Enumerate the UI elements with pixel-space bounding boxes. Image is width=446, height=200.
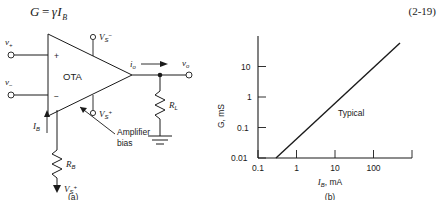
equation-rhs-symbol: γI (52, 4, 62, 19)
bias-annotation-line1: Amplifier (117, 127, 150, 137)
circuit-schematic: v+ v− + − OTA VS− VS+ Amplifier bias (0, 28, 210, 200)
equation-lhs: G (30, 4, 40, 19)
panel-a-circuit-diagram: v+ v− + − OTA VS− VS+ Amplifier bias (0, 28, 210, 200)
x-tick-label-2: 10 (330, 163, 340, 173)
bias-current-label: IB (32, 121, 40, 132)
x-axis-title: IB, mA (317, 177, 343, 188)
y-tick-label-1: 0.1 (237, 123, 249, 133)
y-tick-label-2: 1 (247, 92, 252, 102)
load-resistor-label: RL (168, 100, 178, 111)
y-axis-title: G, mS (216, 104, 226, 128)
input-minus-sign: − (54, 91, 59, 101)
panel-a-caption: (a) (68, 192, 79, 200)
equation-operator: = (40, 4, 52, 19)
bias-supply-arrowhead (53, 185, 61, 193)
v-minus-label: v− (5, 77, 13, 88)
load-resistor-symbol (155, 91, 165, 119)
bias-resistor-label: RB (65, 159, 76, 170)
panel-b-caption: (b) (325, 192, 336, 200)
panel-b-chart: 0.01 0.1 1 10 0.1 1 10 100 Typical G, mS… (210, 28, 446, 200)
output-current-label: io (130, 59, 137, 70)
x-tick-label-1: 1 (294, 163, 299, 173)
v-minus-terminal-circle (8, 92, 14, 98)
supply-positive-label: VS+ (99, 109, 113, 120)
ota-label: OTA (63, 71, 82, 82)
input-plus-sign: + (54, 51, 59, 61)
v-plus-terminal-circle (8, 52, 14, 58)
equation-2-19: G=γIB (30, 4, 68, 22)
bias-resistor-symbol (52, 150, 62, 178)
output-current-arrowhead (160, 61, 168, 67)
equation-rhs-subscript: B (62, 13, 67, 22)
v-plus-label: v+ (5, 37, 13, 48)
supply-positive-terminal-circle (90, 110, 95, 115)
output-terminal-circle (186, 72, 192, 78)
curve-annotation-typical: Typical (338, 108, 365, 118)
equation-number: (2-19) (409, 5, 437, 17)
x-tick-label-0: 0.1 (252, 163, 264, 173)
supply-negative-terminal-circle (90, 34, 95, 39)
supply-negative-label: VS− (99, 32, 113, 43)
output-voltage-label: vo (182, 58, 190, 69)
y-tick-label-0: 0.01 (231, 153, 248, 163)
bias-current-arrowhead (44, 110, 50, 117)
typical-curve (276, 43, 400, 158)
x-tick-label-3: 100 (366, 163, 380, 173)
bias-annotation-line2: bias (117, 138, 133, 148)
ota-triangle-body (48, 34, 132, 116)
transconductance-vs-bias-chart: 0.01 0.1 1 10 0.1 1 10 100 Typical G, mS… (210, 28, 446, 200)
figure-page: G=γIB (2-19) v+ v− + − OTA VS− (0, 0, 446, 200)
y-tick-label-3: 10 (241, 62, 251, 72)
